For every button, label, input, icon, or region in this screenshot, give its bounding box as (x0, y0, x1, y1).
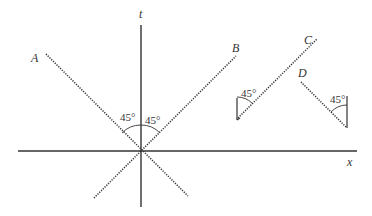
angle-label-right: 45° (145, 114, 160, 126)
angle-arc-right (141, 125, 160, 133)
worldline-a-label: A (30, 51, 39, 65)
worldline-b (94, 56, 236, 198)
angle-label-left: 45° (120, 111, 135, 123)
worldline-d-angle-label: 45° (330, 93, 345, 105)
worldline-d-angle-arc (331, 105, 347, 112)
t-axis-label: t (139, 7, 143, 21)
x-axis-label: x (346, 155, 353, 169)
worldline-d-label: D (297, 66, 307, 80)
worldline-c-label: C (304, 33, 313, 47)
spacetime-diagram: t x A B 45° 45° 45° C 45° D (0, 0, 372, 216)
worldline-c-angle-label: 45° (241, 87, 256, 99)
worldline-b-label: B (232, 41, 240, 55)
